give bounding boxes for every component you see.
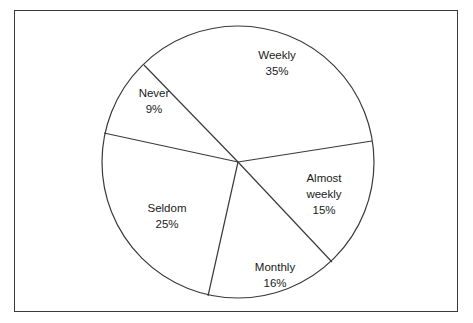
slice-name-line1: Almost (306, 170, 341, 186)
slice-percent: 9% (139, 101, 170, 117)
slice-percent: 16% (255, 275, 295, 291)
slice-label-never: Never 9% (139, 85, 170, 117)
slice-name-line2: weekly (306, 186, 341, 202)
slice-name: Never (139, 85, 170, 101)
slice-percent: 25% (148, 216, 187, 232)
slice-name: Seldom (148, 200, 187, 216)
slice-percent: 35% (258, 63, 296, 79)
slice-label-seldom: Seldom 25% (148, 200, 187, 232)
slice-label-almost-weekly: Almost weekly 15% (306, 170, 341, 218)
slice-name: Monthly (255, 259, 295, 275)
slice-percent: 15% (306, 202, 341, 218)
pie-chart (0, 0, 473, 323)
slice-name: Weekly (258, 47, 296, 63)
slice-label-monthly: Monthly 16% (255, 259, 295, 291)
slice-label-weekly: Weekly 35% (258, 47, 296, 79)
